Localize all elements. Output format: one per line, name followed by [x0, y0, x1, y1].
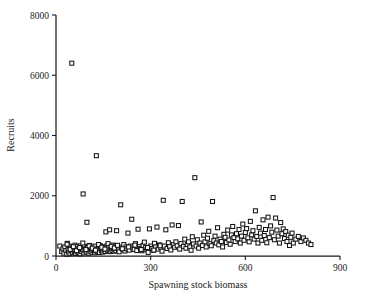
data-point-marker [205, 236, 209, 240]
data-point-marker [279, 221, 283, 225]
data-point-marker [65, 242, 69, 246]
data-point-marker [265, 241, 269, 245]
data-point-marker [108, 228, 112, 232]
data-point-marker [234, 232, 238, 236]
data-point-marker [216, 226, 220, 230]
data-point-marker [152, 248, 156, 252]
data-point-marker [290, 231, 294, 235]
data-point-marker [193, 176, 197, 180]
data-point-marker [277, 241, 281, 245]
data-point-marker [199, 220, 203, 224]
data-point-marker [274, 216, 278, 220]
data-point-marker [133, 243, 137, 247]
data-point-marker [264, 227, 268, 231]
data-point-marker [189, 248, 193, 252]
data-point-marker [207, 229, 211, 233]
data-point-marker [103, 247, 107, 251]
data-point-marker [120, 247, 124, 251]
data-point-marker [180, 199, 184, 203]
data-point-marker [221, 245, 225, 249]
data-point-marker [271, 196, 275, 200]
data-point-marker [289, 235, 293, 239]
data-point-marker [94, 154, 98, 158]
data-point-marker [142, 240, 146, 244]
data-point-marker [241, 222, 245, 226]
data-point-marker [130, 217, 134, 221]
data-point-marker [228, 242, 232, 246]
data-point-marker [78, 246, 82, 250]
x-tick-label: 300 [144, 263, 159, 273]
data-point-marker [93, 248, 97, 252]
y-tick-label: 2000 [30, 191, 49, 201]
data-point-marker [269, 224, 273, 228]
data-point-marker [270, 230, 274, 234]
data-point-marker [309, 243, 313, 247]
data-point-marker [213, 234, 217, 238]
data-point-marker [211, 199, 215, 203]
data-point-marker [245, 227, 249, 231]
data-point-marker [187, 240, 191, 244]
data-point-marker [170, 223, 174, 227]
data-point-marker [251, 229, 255, 233]
data-point-marker [296, 234, 300, 238]
x-axis-title: Spawning stock biomass [149, 279, 248, 290]
data-point-marker [81, 241, 85, 245]
data-point-marker [247, 240, 251, 244]
x-tick-label: 0 [54, 263, 59, 273]
axes-layer [56, 15, 340, 256]
scatter-plot-figure: 030060090002000400060008000 Spawning sto… [0, 0, 365, 299]
data-point-marker [146, 246, 150, 250]
y-tick-label: 4000 [30, 131, 49, 141]
data-point-marker [115, 229, 119, 233]
data-point-marker [127, 245, 131, 249]
data-point-marker [160, 249, 164, 253]
data-point-marker [275, 228, 279, 232]
data-point-marker [136, 227, 140, 231]
axis-tick-labels-layer: 030060090002000400060008000 [30, 11, 347, 274]
data-point-marker [227, 238, 231, 242]
x-tick-label: 600 [238, 263, 253, 273]
data-point-marker [248, 219, 252, 223]
data-point-marker [147, 227, 151, 231]
data-point-marker [176, 224, 180, 228]
data-point-marker [253, 209, 257, 213]
data-point-marker [260, 238, 264, 242]
data-point-marker [226, 228, 230, 232]
plot-canvas: 030060090002000400060008000 Spawning sto… [0, 0, 365, 299]
data-point-marker [155, 225, 159, 229]
data-point-marker [161, 198, 165, 202]
data-point-marker [139, 248, 143, 252]
data-point-marker [116, 243, 120, 247]
y-tick-label: 8000 [30, 11, 49, 21]
data-point-marker [267, 236, 271, 240]
data-point-marker [262, 234, 266, 238]
data-point-marker [209, 244, 213, 248]
data-point-marker [119, 203, 123, 207]
data-point-marker [250, 233, 254, 237]
y-tick-label: 6000 [30, 71, 49, 81]
data-point-marker [237, 227, 241, 231]
data-point-marker [81, 192, 85, 196]
data-point-marker [85, 220, 89, 224]
x-tick-label: 900 [333, 263, 348, 273]
data-point-marker [126, 231, 130, 235]
data-point-marker [158, 244, 162, 248]
data-point-marker [164, 228, 168, 232]
axis-ticks-layer [52, 15, 340, 260]
data-point-marker [70, 61, 74, 65]
data-point-marker [257, 225, 261, 229]
data-point-marker [219, 240, 223, 244]
data-point-marker [261, 218, 265, 222]
data-point-marker [190, 235, 194, 239]
data-point-marker [231, 224, 235, 228]
data-markers-layer [58, 61, 313, 256]
data-point-marker [266, 215, 270, 219]
y-tick-label: 0 [44, 252, 49, 262]
y-axis-title: Recruits [5, 118, 16, 151]
